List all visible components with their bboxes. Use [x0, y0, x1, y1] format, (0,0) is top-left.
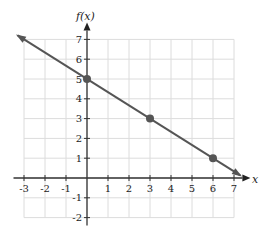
tick-labels: -3-2-11234567-2-11234567 — [19, 34, 237, 223]
y-axis-arrow-icon — [84, 22, 91, 30]
x-tick-label: 5 — [189, 183, 195, 194]
y-tick-label: -2 — [72, 212, 82, 223]
y-tick-label: -1 — [72, 192, 82, 203]
y-tick-label: 2 — [76, 133, 82, 144]
y-tick-label: 1 — [76, 153, 82, 164]
data-point — [83, 75, 91, 83]
line-arrow-right-icon — [232, 168, 242, 176]
data-point — [146, 115, 154, 123]
line-arrow-left-icon — [16, 34, 26, 42]
x-tick-label: -3 — [19, 183, 29, 194]
y-tick-label: 4 — [76, 93, 82, 104]
y-axis-label: f(x) — [75, 10, 95, 23]
x-tick-label: 3 — [147, 183, 153, 194]
x-tick-label: 7 — [231, 183, 237, 194]
x-tick-label: -2 — [40, 183, 50, 194]
x-tick-label: 4 — [168, 183, 174, 194]
y-tick-label: 6 — [76, 54, 82, 65]
x-tick-label: 1 — [105, 183, 111, 194]
x-axis-arrow-icon — [242, 175, 250, 182]
line-chart: -3-2-11234567-2-11234567 x f(x) — [0, 0, 269, 237]
y-tick-label: 3 — [76, 113, 82, 124]
axes — [14, 22, 251, 225]
data-point — [209, 154, 217, 162]
y-tick-label: 7 — [76, 34, 82, 45]
x-tick-label: 6 — [210, 183, 216, 194]
x-axis-label: x — [252, 173, 259, 186]
x-tick-label: -1 — [61, 183, 71, 194]
x-tick-label: 2 — [126, 183, 132, 194]
